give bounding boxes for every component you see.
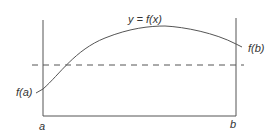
fb-label: f(b)	[248, 43, 265, 54]
curve-label: y = f(x)	[128, 14, 162, 25]
curve-f	[43, 26, 242, 89]
diagram: y = f(x) f(a) f(b) a b	[0, 0, 280, 135]
fa-label: f(a)	[16, 87, 33, 98]
fa-leader-line	[36, 89, 43, 93]
a-label: a	[39, 121, 45, 132]
b-label: b	[230, 119, 236, 130]
